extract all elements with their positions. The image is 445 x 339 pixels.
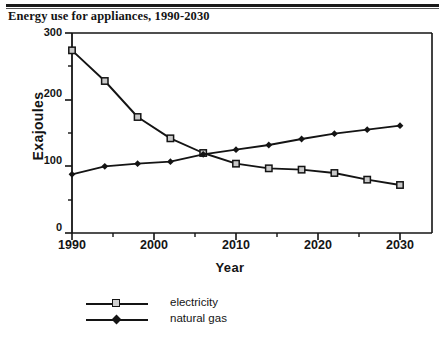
data-point-diamond — [397, 122, 404, 129]
data-point-square — [102, 78, 108, 84]
series-natural-gas — [69, 122, 404, 177]
line-chart: Exajoules 300 200 100 0 — [0, 26, 445, 256]
y-tick-label-300: 300 — [26, 26, 62, 38]
x-tick-label-1990: 1990 — [44, 238, 100, 252]
filled-diamond-marker-icon — [112, 315, 122, 325]
data-point-square — [331, 170, 337, 176]
series-electricity — [69, 47, 403, 188]
data-point-diamond — [134, 160, 141, 167]
y-tick-label-100: 100 — [26, 154, 62, 166]
figure-page: Energy use for appliances, 1990-2030 Exa… — [0, 0, 445, 339]
data-point-diamond — [69, 171, 76, 178]
data-point-square — [364, 176, 370, 182]
x-tick-label-2000: 2000 — [126, 238, 182, 252]
legend-label: natural gas — [170, 312, 227, 324]
data-point-diamond — [364, 126, 371, 133]
data-point-diamond — [298, 136, 305, 143]
header-rule — [6, 4, 439, 7]
y-tick-label-200: 200 — [26, 87, 62, 99]
chart-legend: electricity natural gas — [86, 296, 346, 328]
plot-frame — [72, 33, 432, 233]
legend-item-natural-gas[interactable]: natural gas — [86, 312, 346, 328]
data-point-square — [167, 135, 173, 141]
data-point-square — [69, 47, 75, 53]
x-tick-label-2010: 2010 — [208, 238, 264, 252]
legend-label: electricity — [170, 296, 218, 308]
data-point-square — [266, 165, 272, 171]
data-point-diamond — [331, 130, 338, 137]
data-point-diamond — [101, 163, 108, 170]
page-title: Energy use for appliances, 1990-2030 — [8, 9, 210, 24]
data-point-square — [134, 114, 140, 120]
x-tick-label-2020: 2020 — [290, 238, 346, 252]
x-axis-label: Year — [0, 260, 445, 275]
data-series-layer — [69, 47, 404, 188]
chart-canvas — [0, 26, 445, 256]
y-axis-ticks — [65, 33, 72, 233]
data-point-square — [298, 166, 304, 172]
open-square-marker-icon — [112, 299, 120, 307]
legend-item-electricity[interactable]: electricity — [86, 296, 346, 312]
y-tick-label-0: 0 — [26, 221, 62, 233]
data-point-square — [233, 160, 239, 166]
data-point-diamond — [265, 142, 272, 149]
data-point-square — [397, 182, 403, 188]
data-point-diamond — [233, 146, 240, 153]
data-point-diamond — [167, 158, 174, 165]
x-tick-label-2030: 2030 — [372, 238, 428, 252]
